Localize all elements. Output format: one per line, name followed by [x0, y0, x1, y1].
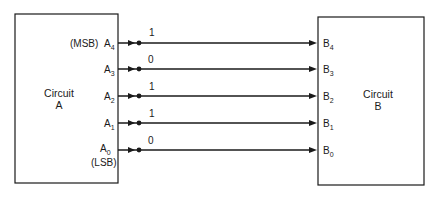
bit-value: 1 — [149, 108, 155, 119]
arrow-in-icon — [309, 93, 317, 99]
circuit-b-name: B — [374, 100, 381, 112]
bit-value: 1 — [149, 27, 155, 38]
arrow-out-icon — [128, 93, 135, 99]
signal-line-2: A2 1 B2 — [104, 81, 334, 104]
input-label-b0: B0 — [323, 145, 334, 158]
msb-label: (MSB) — [70, 38, 98, 49]
arrow-in-icon — [309, 40, 317, 46]
input-label-b3: B3 — [323, 64, 334, 77]
input-label-b1: B1 — [323, 118, 334, 131]
output-label-a2: A2 — [104, 91, 115, 104]
circuit-b-box — [318, 17, 424, 185]
arrow-in-icon — [309, 147, 317, 153]
arrow-out-icon — [128, 40, 135, 46]
circuit-a-title: Circuit — [44, 87, 74, 99]
signal-line-4: A4 1 B4 — [104, 27, 334, 51]
circuit-a-name: A — [55, 99, 62, 111]
circuit-b-title: Circuit — [363, 88, 393, 100]
output-label-a0: A0 — [100, 143, 111, 156]
signal-line-1: A1 1 B1 — [104, 108, 334, 131]
junction-dot-icon — [137, 148, 142, 153]
arrow-in-icon — [309, 66, 317, 72]
input-label-b4: B4 — [323, 38, 334, 51]
junction-dot-icon — [137, 67, 142, 72]
parallel-transfer-diagram: Circuit A Circuit B (MSB) (LSB) A4 1 B4 … — [0, 0, 436, 206]
arrow-out-icon — [128, 147, 135, 153]
arrow-out-icon — [128, 66, 135, 72]
input-label-b2: B2 — [323, 91, 334, 104]
junction-dot-icon — [137, 41, 142, 46]
bit-value: 1 — [149, 81, 155, 92]
junction-dot-icon — [137, 94, 142, 99]
output-label-a4: A4 — [104, 38, 115, 51]
signal-line-0: A0 0 B0 — [100, 135, 334, 158]
output-label-a3: A3 — [104, 64, 115, 77]
bit-value: 0 — [148, 54, 154, 65]
arrow-in-icon — [309, 120, 317, 126]
bit-value: 0 — [148, 135, 154, 146]
output-label-a1: A1 — [104, 118, 115, 131]
junction-dot-icon — [137, 121, 142, 126]
arrow-out-icon — [128, 120, 135, 126]
signal-line-3: A3 0 B3 — [104, 54, 334, 77]
lsb-label: (LSB) — [91, 157, 117, 168]
